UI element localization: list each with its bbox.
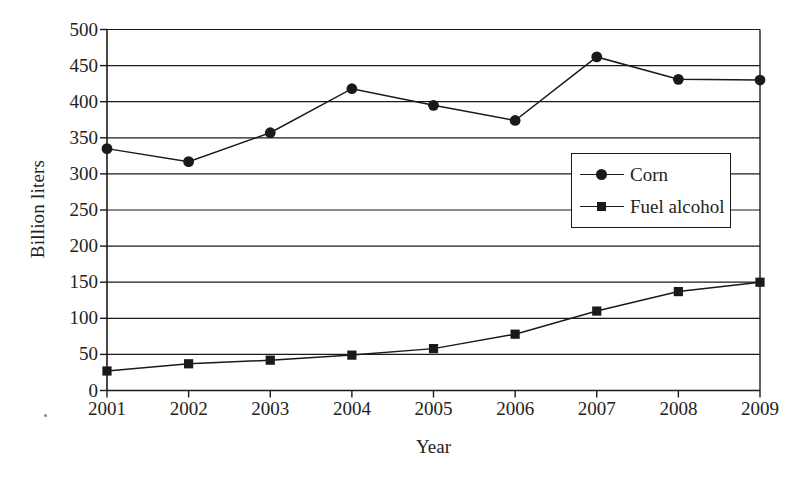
x-axis-ticks [107, 391, 760, 398]
legend-label-corn: Corn [630, 164, 668, 186]
data-point-marker-square [347, 351, 356, 360]
x-tick-label: 2008 [638, 398, 718, 420]
data-point-marker-circle [755, 75, 766, 86]
line-chart: 050100150200250300350400450500 200120022… [0, 0, 810, 479]
legend-item-fuel-alcohol: Fuel alcohol [580, 197, 724, 217]
scan-artifact-dot [44, 414, 47, 417]
data-point-marker-square [429, 344, 438, 353]
legend-marker-square-icon [580, 200, 624, 214]
y-axis-ticks [100, 30, 107, 391]
data-point-marker-circle [346, 83, 357, 94]
data-point-marker-square [755, 278, 764, 287]
data-point-marker-square [184, 359, 193, 368]
x-tick-label: 2005 [394, 398, 474, 420]
y-tick-label: 100 [38, 308, 98, 327]
legend-item-corn: Corn [580, 165, 668, 185]
data-point-marker-square [592, 306, 601, 315]
y-tick-label: 400 [38, 92, 98, 111]
x-axis-title: Year [107, 436, 760, 458]
legend-marker-circle-icon [580, 168, 624, 182]
data-point-marker-circle [265, 127, 276, 138]
data-point-marker-circle [591, 52, 602, 63]
x-tick-label: 2006 [475, 398, 555, 420]
legend-label-fuel-alcohol: Fuel alcohol [630, 196, 724, 218]
y-tick-label: 500 [38, 20, 98, 39]
x-tick-label: 2002 [149, 398, 229, 420]
x-tick-label: 2009 [720, 398, 800, 420]
data-point-marker-circle [183, 156, 194, 167]
y-tick-label: 0 [38, 381, 98, 400]
data-point-marker-circle [428, 100, 439, 111]
y-tick-label: 50 [38, 344, 98, 363]
y-axis-title: Billion liters [27, 119, 49, 299]
data-point-marker-square [102, 366, 111, 375]
x-tick-label: 2004 [312, 398, 392, 420]
legend: Corn Fuel alcohol [571, 153, 731, 228]
data-point-marker-square [511, 330, 520, 339]
series-line-fuel-alcohol [107, 282, 760, 371]
y-tick-label: 450 [38, 56, 98, 75]
x-tick-label: 2007 [557, 398, 637, 420]
data-point-marker-square [266, 356, 275, 365]
data-point-marker-circle [102, 143, 113, 154]
x-tick-label: 2001 [67, 398, 147, 420]
x-tick-label: 2003 [230, 398, 310, 420]
data-point-marker-square [674, 287, 683, 296]
data-point-marker-circle [510, 115, 521, 126]
data-point-marker-circle [673, 74, 684, 85]
